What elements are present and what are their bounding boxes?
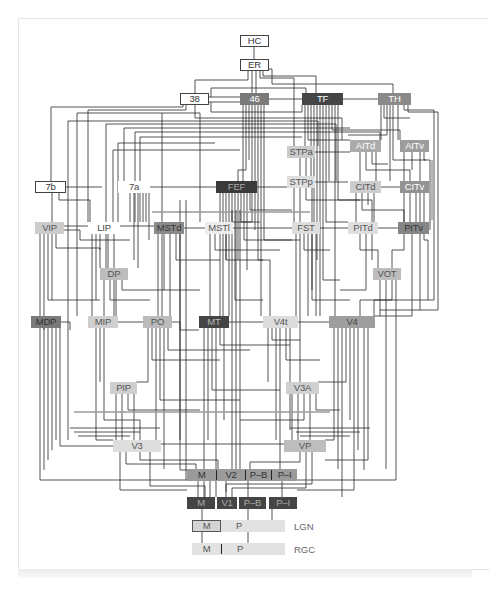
node-lgn: M P	[192, 520, 285, 532]
node-tf: TF	[302, 93, 343, 105]
node-er: ER	[240, 59, 269, 71]
node-stpp: STPp	[287, 176, 315, 188]
node-mt: MT	[199, 316, 229, 328]
node-vip: VIP	[35, 222, 64, 234]
rgc-p-label: P	[222, 543, 258, 555]
node-po: PO	[143, 316, 172, 328]
node-aitv: AITv	[400, 140, 429, 152]
node-v1-pb: P–B	[239, 497, 266, 509]
v2-m-label: M	[187, 469, 216, 481]
node-v4t: V4t	[263, 316, 298, 328]
v2-pi-label: P–I	[272, 469, 297, 481]
node-v1: V1	[217, 497, 237, 509]
node-mip: MIP	[88, 316, 118, 328]
node-v1-m: M	[187, 497, 215, 509]
rgc-row-label: RGC	[294, 544, 315, 556]
node-vp: VP	[284, 440, 326, 452]
node-mstd: MSTd	[154, 222, 184, 234]
node-dp: DP	[100, 268, 128, 280]
node-38: 38	[180, 93, 209, 105]
node-citd: CITd	[350, 181, 381, 193]
node-mstl: MSTl	[205, 222, 233, 234]
node-v1-pi: P–I	[269, 497, 297, 509]
node-v3a: V3A	[286, 382, 319, 394]
node-stpa: STPa	[287, 146, 315, 158]
v2-label: V2	[217, 469, 245, 481]
node-pip: PIP	[110, 382, 137, 394]
node-fst: FST	[292, 222, 320, 234]
node-th: TH	[378, 93, 411, 105]
node-vot: VOT	[373, 268, 401, 280]
node-46: 46	[240, 93, 269, 105]
node-v3: V3	[113, 440, 161, 452]
node-fef: FEF	[216, 181, 257, 193]
node-pitv: PITv	[398, 222, 429, 234]
rgc-m-label: M	[192, 543, 221, 555]
node-lip: LIP	[88, 222, 120, 234]
node-mdp: MDP	[31, 316, 61, 328]
v2-pb-label: P–B	[246, 469, 271, 481]
lgn-row-label: LGN	[294, 521, 314, 533]
node-v4: V4	[329, 316, 375, 328]
node-aitd: AITd	[350, 140, 381, 152]
node-rgc: M P	[192, 543, 285, 555]
node-7a: 7a	[118, 181, 150, 193]
node-pitd: PITd	[348, 222, 378, 234]
node-hc: HC	[240, 35, 269, 47]
node-citv: CITv	[400, 181, 429, 193]
lgn-p-label: P	[221, 520, 257, 532]
node-7b: 7b	[35, 181, 66, 193]
node-v2: M V2 P–B P–I	[187, 469, 297, 481]
lgn-m-label: M	[192, 520, 221, 532]
